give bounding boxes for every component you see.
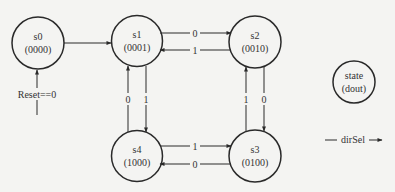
state-s2-output: (0010) (242, 43, 269, 55)
state-s3-name: s3 (251, 144, 260, 155)
legend-state-name: state (345, 70, 364, 81)
edge-s2-s3-label: 0 (262, 94, 267, 105)
state-s1-circle (112, 16, 163, 67)
edge-s3-s2-label: 1 (244, 94, 249, 105)
state-s3-output: (0100) (242, 157, 269, 169)
legend-state-output: (dout) (342, 83, 366, 95)
state-s0-output: (0000) (25, 44, 52, 56)
edge-s4-s3-label: 1 (193, 141, 198, 152)
state-s3-circle (229, 130, 281, 182)
state-s4-output: (1000) (124, 157, 151, 169)
state-s4-circle (112, 131, 163, 182)
edge-s2-s1-label: 1 (193, 45, 198, 56)
state-s1-output: (0001) (124, 42, 151, 54)
state-s2-circle (229, 16, 281, 68)
edge-s1-s2-label: 0 (193, 28, 198, 39)
state-s0-name: s0 (34, 31, 43, 42)
state-s2-name: s2 (251, 30, 260, 41)
state-s1-name: s1 (133, 29, 142, 40)
legend-state-circle (333, 61, 375, 103)
edge-s1-s4-label: 1 (144, 94, 149, 105)
edge-s4-s1-label: 0 (126, 94, 131, 105)
state-diagram: s0 (0000) s1 (0001) s2 (0010) s3 (0100) … (0, 0, 395, 192)
state-s4-name: s4 (133, 144, 142, 155)
reset-label: Reset==0 (18, 89, 57, 100)
diagram-svg: s0 (0000) s1 (0001) s2 (0010) s3 (0100) … (0, 0, 395, 192)
legend-input-label: dirSel (341, 134, 365, 145)
edge-s3-s4-label: 0 (193, 159, 198, 170)
state-s0-circle (12, 17, 64, 69)
